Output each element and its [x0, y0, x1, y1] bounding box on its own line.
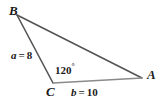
vertex-label-a: A: [147, 68, 156, 81]
degree-symbol-icon: °: [72, 62, 75, 71]
angle-c-value: 120: [55, 64, 72, 76]
side-a-value: 8: [27, 49, 33, 61]
geometry-diagram-canvas: B C A a=8 b=10 120°: [0, 0, 163, 104]
side-b-variable: b: [71, 86, 77, 98]
segment-BA: [17, 15, 142, 78]
vertex-label-b: B: [9, 4, 18, 17]
vertex-label-c: C: [46, 85, 55, 98]
angle-measure-label-c: 120°: [55, 63, 75, 76]
side-b-equals: =: [79, 86, 85, 98]
side-a-variable: a: [11, 49, 17, 61]
side-b-value: 10: [87, 86, 98, 98]
side-a-equals: =: [19, 49, 25, 61]
side-length-label-b: b=10: [71, 87, 98, 98]
side-length-label-a: a=8: [11, 50, 32, 61]
segment-CA: [53, 78, 142, 83]
